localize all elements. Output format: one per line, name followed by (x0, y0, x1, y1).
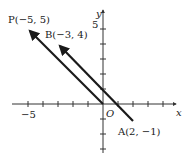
origin-label: O (106, 108, 114, 119)
vector-op (30, 31, 103, 104)
x-axis: −5 x (12, 101, 182, 120)
vector-ab (60, 46, 133, 121)
y-axis-label: y (95, 8, 102, 19)
x-axis-label: x (176, 107, 182, 118)
coordinate-plane: −5 x 5 y O P(−5, 5) B(−3, 4) A(2, −1) (0, 0, 189, 158)
point-p-label: P(−5, 5) (8, 14, 50, 25)
x-tick-label: −5 (21, 109, 36, 120)
point-b-label: B(−3, 4) (45, 29, 88, 40)
point-a-label: A(2, −1) (117, 126, 161, 137)
y-tick-label: 5 (92, 19, 98, 30)
